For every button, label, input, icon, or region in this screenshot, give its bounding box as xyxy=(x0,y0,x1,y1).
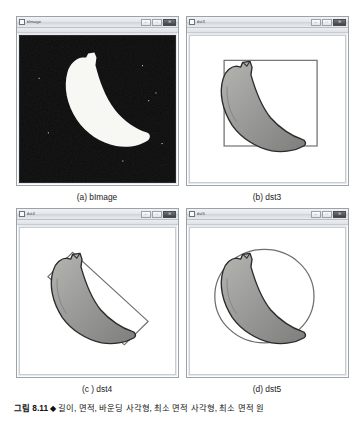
titlebar-dst5[interactable]: dst5 – □ ✕ xyxy=(187,209,348,220)
binary-image-svg xyxy=(20,36,175,182)
dst5-image-svg xyxy=(190,228,345,374)
titlebar-dst3[interactable]: dst3 – □ ✕ xyxy=(187,17,348,28)
close-button[interactable]: ✕ xyxy=(163,211,176,218)
figure-caption: 그림 8.11◆길이, 면적, 바운딩 사각형, 최소 면적 사각형, 최소 면… xyxy=(14,402,347,414)
window-controls: – □ ✕ xyxy=(141,19,176,26)
close-button[interactable]: ✕ xyxy=(333,211,346,218)
minimize-button[interactable]: – xyxy=(311,19,321,26)
figure-separator-icon: ◆ xyxy=(48,403,58,413)
window-title-label: dst3 xyxy=(197,19,311,25)
window-dst3[interactable]: dst3 – □ ✕ xyxy=(186,16,349,186)
panel-a: bImage – □ ✕ xyxy=(14,16,180,208)
minimize-button[interactable]: – xyxy=(311,211,321,218)
figure-caption-text: 길이, 면적, 바운딩 사각형, 최소 면적 사각형, 최소 면적 원 xyxy=(58,403,264,413)
panel-caption-c: (c ) dst4 xyxy=(82,384,112,395)
panel-caption-d: (d) dst5 xyxy=(253,384,281,395)
dst3-image-svg xyxy=(190,36,345,182)
window-icon xyxy=(19,211,25,217)
figure-number: 그림 8.11 xyxy=(14,403,48,413)
dst4-background xyxy=(20,228,175,374)
image-canvas-dst3 xyxy=(189,35,346,183)
window-bimage[interactable]: bImage – □ ✕ xyxy=(16,16,179,186)
window-controls: – □ ✕ xyxy=(311,211,346,218)
toolbar-strip xyxy=(17,28,178,33)
dst3-background xyxy=(190,36,345,182)
panel-caption-a: (a) bImage xyxy=(77,192,118,203)
toolbar-strip xyxy=(187,28,348,33)
dst4-image-svg xyxy=(20,228,175,374)
window-icon xyxy=(189,19,195,25)
window-controls: – □ ✕ xyxy=(141,211,176,218)
panel-b: dst3 – □ ✕ xyxy=(184,16,350,208)
window-dst4[interactable]: dst4 – □ ✕ xyxy=(16,208,179,378)
image-canvas-dst5 xyxy=(189,227,346,375)
minimize-button[interactable]: – xyxy=(141,19,151,26)
maximize-button[interactable]: □ xyxy=(322,19,332,26)
panel-c: dst4 – □ ✕ xyxy=(14,208,180,400)
toolbar-strip xyxy=(187,220,348,225)
toolbar-strip xyxy=(17,220,178,225)
close-button[interactable]: ✕ xyxy=(333,19,346,26)
maximize-button[interactable]: □ xyxy=(152,211,162,218)
image-canvas-dst4 xyxy=(19,227,176,375)
window-title-label: dst5 xyxy=(197,211,311,217)
window-dst5[interactable]: dst5 – □ ✕ xyxy=(186,208,349,378)
window-title-label: bImage xyxy=(27,19,141,25)
titlebar-dst4[interactable]: dst4 – □ ✕ xyxy=(17,209,178,220)
panel-caption-b: (b) dst3 xyxy=(253,192,281,203)
window-icon xyxy=(189,211,195,217)
panel-d: dst5 – □ ✕ xyxy=(184,208,350,400)
figure-container: bImage – □ ✕ xyxy=(0,0,361,422)
close-button[interactable]: ✕ xyxy=(163,19,176,26)
image-canvas-binary xyxy=(19,35,176,183)
minimize-button[interactable]: – xyxy=(141,211,151,218)
window-title-label: dst4 xyxy=(27,211,141,217)
titlebar-bimage[interactable]: bImage – □ ✕ xyxy=(17,17,178,28)
maximize-button[interactable]: □ xyxy=(152,19,162,26)
window-controls: – □ ✕ xyxy=(311,19,346,26)
panel-grid: bImage – □ ✕ xyxy=(14,16,347,400)
maximize-button[interactable]: □ xyxy=(322,211,332,218)
window-icon xyxy=(19,19,25,25)
